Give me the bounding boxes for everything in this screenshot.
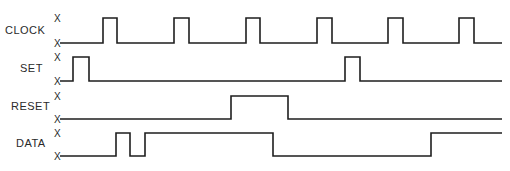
x-marker-high: X — [54, 13, 61, 24]
signal-label-set: SET — [20, 62, 43, 74]
waveform-data — [60, 133, 502, 156]
x-marker-low: X — [54, 151, 61, 162]
x-marker-high: X — [54, 52, 61, 63]
signal-label-reset: RESET — [11, 100, 50, 112]
signal-label-data: DATA — [16, 137, 46, 149]
x-marker-low: X — [54, 76, 61, 87]
x-marker-high: X — [54, 128, 61, 139]
x-marker-high: X — [54, 91, 61, 102]
waveform-set — [60, 57, 502, 81]
x-marker-low: X — [54, 38, 61, 49]
signal-reset: RESET X X — [11, 91, 502, 125]
signal-set: SET X X — [20, 52, 502, 87]
waveform-clock — [60, 18, 502, 43]
signal-label-clock: CLOCK — [5, 24, 46, 36]
signal-data: DATA X X — [16, 128, 502, 162]
waveform-reset — [60, 96, 502, 119]
timing-diagram: CLOCK X X SET X X RESET X X DATA X X — [0, 0, 510, 171]
signal-clock: CLOCK X X — [5, 13, 502, 49]
x-marker-low: X — [54, 114, 61, 125]
